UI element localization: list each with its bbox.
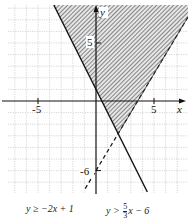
x-axis-label: x xyxy=(176,103,182,115)
fraction-denominator: 3 xyxy=(123,212,127,220)
inequality-graph: y 5 -5 5 x -6 xyxy=(0,0,188,200)
caption-inequality-2: y > 5 3 x − 6 xyxy=(106,203,149,220)
tick-label-y-neg6: -6 xyxy=(80,165,90,177)
caption-inequality-1: y ≥ −2x + 1 xyxy=(26,203,74,214)
shaded-solution-region xyxy=(54,5,188,134)
fraction: 5 3 xyxy=(123,203,127,220)
tick-label-x-5: 5 xyxy=(151,103,157,115)
tick-label-y-5: 5 xyxy=(87,36,93,48)
caption-2-prefix: y > xyxy=(106,205,120,216)
caption-2-suffix: x − 6 xyxy=(128,205,149,216)
tick-label-x-neg5: -5 xyxy=(32,103,42,115)
y-axis-label: y xyxy=(99,6,105,18)
